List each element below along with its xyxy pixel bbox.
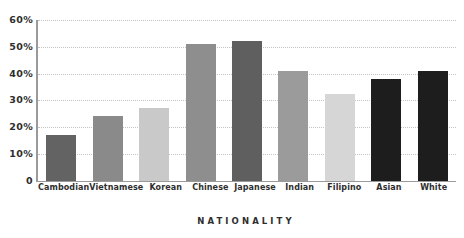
x-axis-tick-label-vietnamese: Vietnamese: [89, 184, 143, 193]
bar-chinese[interactable]: [186, 44, 216, 180]
x-axis-tick-label-indian: Indian: [277, 184, 322, 193]
y-axis: 60%50%40%30%20%10%0: [0, 0, 33, 238]
bar-slot: [84, 20, 130, 181]
plot-area: [36, 20, 456, 182]
x-axis-tick-label-asian: Asian: [367, 184, 412, 193]
bar-slot: [410, 20, 456, 181]
x-axis-tick-label-filipino: Filipino: [322, 184, 367, 193]
bar-slot: [363, 20, 409, 181]
y-axis-tick-label: 40%: [1, 69, 33, 79]
x-axis-tick-label-white: White: [411, 184, 456, 193]
x-axis-title: NATIONALITY: [36, 216, 456, 226]
bars-group: [38, 20, 456, 181]
x-axis-tick-labels: CambodianVietnameseKoreanChineseJapanese…: [38, 184, 456, 193]
bar-filipino[interactable]: [325, 94, 355, 181]
x-axis-tick-label-cambodian: Cambodian: [38, 184, 89, 193]
y-axis-tick-label: 0: [1, 176, 33, 186]
bar-indian[interactable]: [278, 71, 308, 181]
bar-slot: [131, 20, 177, 181]
bar-japanese[interactable]: [232, 41, 262, 180]
bar-slot: [317, 20, 363, 181]
bar-asian[interactable]: [371, 79, 401, 181]
bar-slot: [177, 20, 223, 181]
bar-white[interactable]: [418, 71, 448, 181]
bar-slot: [270, 20, 316, 181]
y-axis-tick-label: 10%: [1, 149, 33, 159]
bar-slot: [38, 20, 84, 181]
x-axis-tick-label-japanese: Japanese: [233, 184, 278, 193]
bar-cambodian[interactable]: [46, 135, 76, 180]
y-axis-tick-label: 50%: [1, 42, 33, 52]
y-axis-tick-label: 20%: [1, 122, 33, 132]
x-axis-line: [36, 181, 456, 183]
x-axis-tick-label-korean: Korean: [143, 184, 188, 193]
y-axis-tick-label: 30%: [1, 96, 33, 106]
bar-vietnamese[interactable]: [93, 116, 123, 180]
bar-korean[interactable]: [139, 108, 169, 180]
x-axis-tick-label-chinese: Chinese: [188, 184, 233, 193]
bar-slot: [224, 20, 270, 181]
y-axis-tick-label: 60%: [1, 15, 33, 25]
bar-chart: 60%50%40%30%20%10%0 CambodianVietnameseK…: [0, 0, 464, 238]
